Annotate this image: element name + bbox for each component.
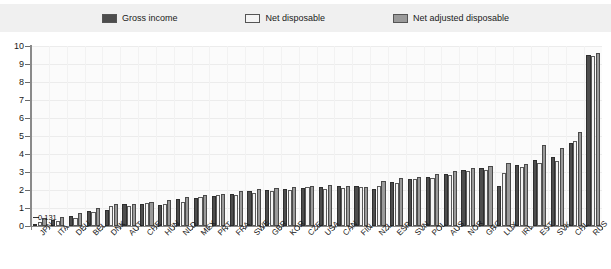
bar-group [33,46,46,226]
y-axis-tick-label: 10 [0,42,24,51]
bar-gross [515,165,519,226]
bar-net [38,222,42,226]
bar-group [212,46,225,226]
bar-gross [426,177,430,227]
bar-group [354,46,367,226]
gridline-vertical [370,46,371,226]
bar-net [323,189,327,226]
bar-adj [203,195,207,227]
bar-group [497,46,510,226]
bar-gross [569,143,573,226]
bar-group [461,46,474,226]
bar-gross [551,157,555,226]
y-axis-tick-mark [25,226,30,227]
bar-group [551,46,564,226]
bar-gross [319,187,323,226]
bar-adj [435,174,439,226]
bar-net [234,195,238,227]
bar-gross [461,170,465,226]
gridline-vertical [459,46,460,226]
bar-gross [337,186,341,226]
bar-group [569,46,582,226]
bar-gross [390,182,394,226]
bar-gross [247,191,251,226]
bar-group [372,46,385,226]
bar-group [122,46,135,226]
bar-group [105,46,118,226]
bar-group [533,46,546,226]
bar-group [444,46,457,226]
bar-group [408,46,421,226]
bar-net [502,173,506,226]
bar-group [390,46,403,226]
bar-adj [328,185,332,226]
legend-swatch-net-adjusted-disposable [393,14,408,23]
y-axis-tick-label: 8 [0,78,24,87]
y-axis-tick-label: 2 [0,186,24,195]
bar-net [252,193,256,226]
bar-net [395,183,399,226]
bar-adj [578,132,582,226]
legend-label-net-adjusted-disposable: Net adjusted disposable [413,14,509,23]
bar-group [265,46,278,226]
bar-adj [257,189,261,226]
bar-group [87,46,100,226]
bar-net [145,203,149,226]
gridline-vertical [495,46,496,226]
y-axis-tick-label: 0 [0,222,24,231]
gridline-vertical [245,46,246,226]
bar-net [127,206,131,226]
bar-net [520,167,524,226]
y-axis-tick-label: 5 [0,132,24,141]
gridline-vertical [49,46,50,226]
bar-gross [372,189,376,226]
y-axis-line [30,45,32,227]
bar-net [359,187,363,226]
legend-item-gross-income: Gross income [102,14,178,23]
bar-net [216,195,220,226]
bar-group [426,46,439,226]
bar-adj [399,178,403,226]
legend-swatch-net-disposable [245,14,260,23]
gridline-vertical [156,46,157,226]
bar-gross [69,216,73,226]
y-axis-tick-mark [25,172,30,173]
gridline-vertical [138,46,139,226]
gridline-vertical [424,46,425,226]
bar-net [341,188,345,226]
bar-net [91,212,95,226]
gridline-vertical [566,46,567,226]
bar-gross [586,55,590,226]
bar-net [591,56,595,226]
bar-gross [533,160,537,226]
gridline-vertical [67,46,68,226]
y-axis-tick-label: 6 [0,114,24,123]
bar-adj [274,188,278,226]
bar-net [555,161,559,226]
bar-net [109,206,113,226]
gridline-vertical [192,46,193,226]
bar-net [288,190,292,226]
bar-net [305,187,309,226]
gridline-vertical [227,46,228,226]
bar-adj [292,187,296,226]
gridline-vertical [352,46,353,226]
gridline-vertical [548,46,549,226]
gridline-vertical [513,46,514,226]
bar-group [69,46,82,226]
y-axis-tick-mark [25,100,30,101]
bar-adj [453,171,457,226]
gridline-vertical [584,46,585,226]
bar-net [573,141,577,227]
bar-net [163,204,167,227]
y-axis-tick-mark [25,154,30,155]
bar-gross [408,179,412,226]
y-axis-tick-mark [25,82,30,83]
bar-net [466,171,470,226]
y-axis-tick-label: 1 [0,204,24,213]
bar-group [515,46,528,226]
bar-group [319,46,332,226]
bar-net [181,202,185,226]
bar-adj [560,148,564,226]
bar-net [448,175,452,226]
